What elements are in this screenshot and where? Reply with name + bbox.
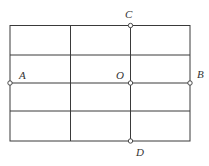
grid-lines [10,26,190,142]
point-o-marker [128,81,132,85]
label-c: C [125,8,133,20]
label-d: D [135,146,144,158]
label-b: B [197,68,204,80]
grid-diagram: A O B C D [0,0,209,166]
point-b-marker [188,81,192,85]
point-a-marker [8,81,12,85]
label-o: O [116,69,124,81]
point-d-marker [128,139,132,143]
label-a: A [18,69,26,81]
point-c-marker [128,23,132,27]
